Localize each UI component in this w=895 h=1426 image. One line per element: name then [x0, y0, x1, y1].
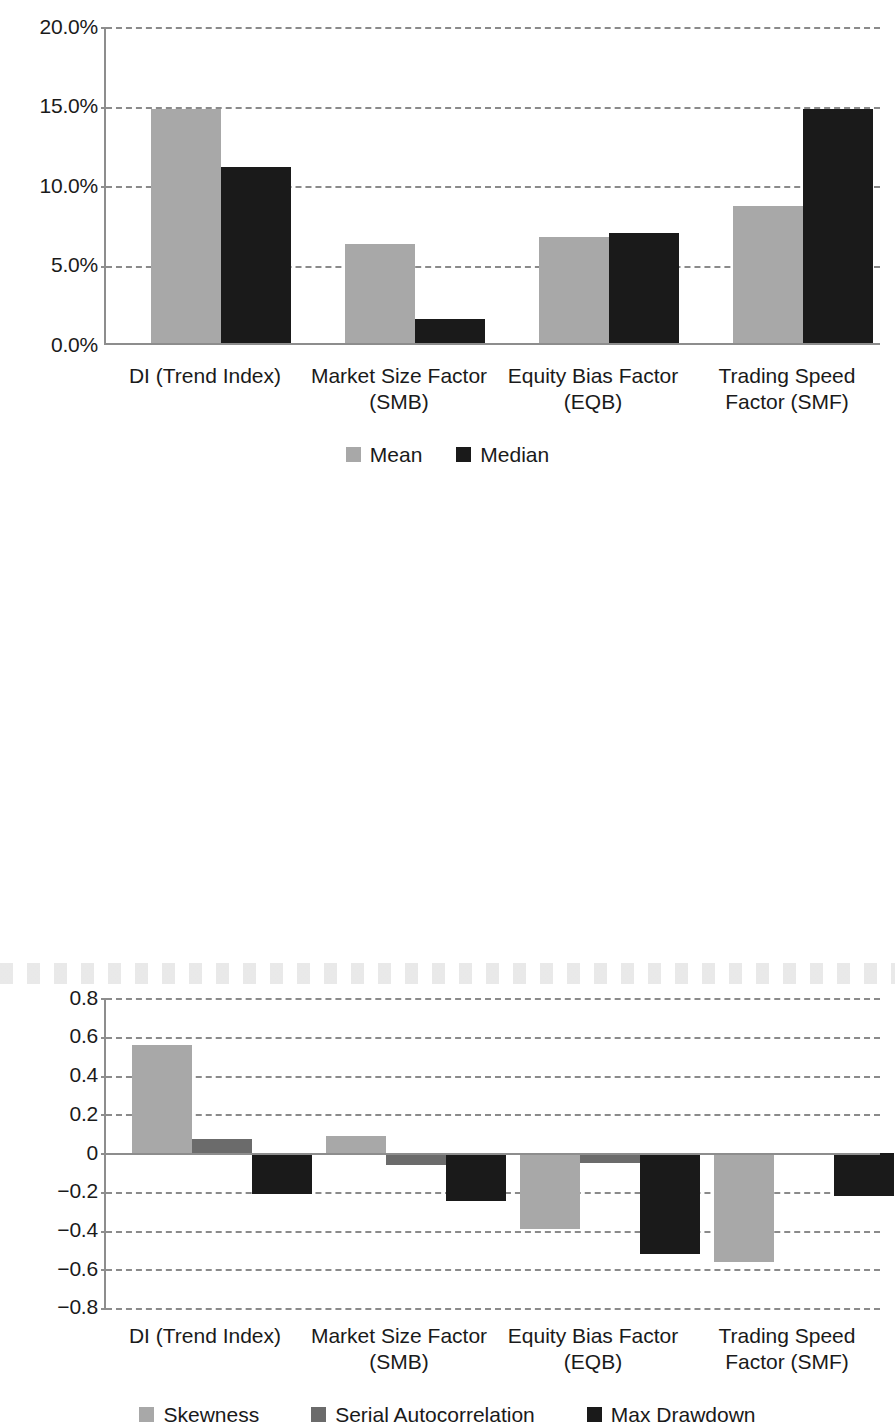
x-category-line: (SMB) [293, 389, 505, 415]
legend-label-median: Median [480, 444, 549, 465]
y-tick-label: 0.6 [6, 1025, 98, 1046]
bar-skewness-smb [326, 1136, 386, 1153]
y-tick-label: 0.0% [6, 334, 98, 355]
x-category-label-di: DI (Trend Index) [99, 363, 311, 389]
zero-baseline [106, 1153, 880, 1155]
y-tick-label: −0.4 [6, 1219, 98, 1240]
bar-skewness-eqb [520, 1153, 580, 1229]
bottom-chart-x-axis-labels: DI (Trend Index) Market Size Factor (SMB… [0, 1323, 895, 1383]
y-tickmark [101, 1037, 110, 1039]
y-tick-label: 0.8 [6, 987, 98, 1008]
legend-item-median[interactable]: Median [456, 444, 549, 465]
gridline-0.2 [106, 1114, 880, 1116]
page-scan-artifact [0, 963, 895, 984]
y-tickmark [101, 1076, 110, 1078]
gridline-0.6 [106, 1037, 880, 1039]
y-tick-label: 0.2 [6, 1103, 98, 1124]
x-category-line: Market Size Factor [293, 363, 505, 389]
x-category-line: Factor (SMF) [681, 1349, 893, 1375]
bar-maxdrawdown-eqb [640, 1153, 700, 1254]
x-category-label-smf: Trading Speed Factor (SMF) [681, 363, 893, 415]
x-category-line: Market Size Factor [293, 1323, 505, 1349]
legend-item-skewness[interactable]: Skewness [139, 1404, 259, 1425]
y-tickmark [101, 998, 110, 1000]
bar-mean-smb [345, 244, 415, 343]
y-tick-label: 20.0% [6, 16, 98, 37]
legend-label-mean: Mean [370, 444, 423, 465]
x-category-label-smb: Market Size Factor (SMB) [293, 1323, 505, 1375]
bar-median-smf [803, 109, 873, 343]
legend-swatch-mean-icon [346, 447, 361, 462]
bar-median-smb [415, 319, 485, 343]
y-tick-label: 5.0% [6, 254, 98, 275]
top-chart-legend: Mean Median [0, 442, 895, 466]
x-category-line: Equity Bias Factor [487, 1323, 699, 1349]
gridline--0.8 [106, 1308, 880, 1310]
x-category-line: (SMB) [293, 1349, 505, 1375]
y-tick-label: −0.6 [6, 1258, 98, 1279]
x-category-line: Trading Speed [681, 363, 893, 389]
gridline-0.4 [106, 1076, 880, 1078]
legend-label-skewness: Skewness [163, 1404, 259, 1425]
x-category-label-smf: Trading Speed Factor (SMF) [681, 1323, 893, 1375]
legend-item-max-drawdown[interactable]: Max Drawdown [587, 1404, 756, 1425]
y-tick-label: 15.0% [6, 95, 98, 116]
y-tickmark [101, 1308, 110, 1310]
bar-serialautocorr-di [192, 1139, 252, 1153]
legend-item-mean[interactable]: Mean [346, 444, 423, 465]
legend-swatch-skewness-icon [139, 1407, 154, 1422]
bar-median-eqb [609, 233, 679, 343]
x-category-line: DI (Trend Index) [99, 363, 311, 389]
y-tickmark [101, 186, 110, 188]
legend-swatch-serial-autocorrelation-icon [311, 1407, 326, 1422]
bottom-chart-plot-area [104, 998, 880, 1308]
legend-label-max-drawdown: Max Drawdown [611, 1404, 756, 1425]
y-tickmark [101, 107, 110, 109]
top-chart-plot-area [104, 27, 880, 345]
bar-mean-smf [733, 206, 803, 343]
top-chart-x-axis-labels: DI (Trend Index) Market Size Factor (SMB… [0, 363, 895, 423]
y-tickmark [101, 1114, 110, 1116]
x-category-line: (EQB) [487, 389, 699, 415]
bottom-chart: 0.8 0.6 0.4 0.2 0 −0.2 −0.4 −0.6 −0.8 [0, 975, 895, 1426]
bar-mean-di [151, 109, 221, 343]
y-tick-label: 0.4 [6, 1064, 98, 1085]
bar-maxdrawdown-smf [834, 1153, 894, 1196]
bar-skewness-di [132, 1045, 192, 1154]
y-tickmark [101, 27, 110, 29]
x-category-line: DI (Trend Index) [99, 1323, 311, 1349]
y-tickmark [101, 1231, 110, 1233]
x-category-label-eqb: Equity Bias Factor (EQB) [487, 1323, 699, 1375]
legend-item-serial-autocorrelation[interactable]: Serial Autocorrelation [311, 1404, 535, 1425]
legend-label-serial-autocorrelation: Serial Autocorrelation [335, 1404, 535, 1425]
bar-median-di [221, 167, 291, 344]
y-tick-label: 0 [6, 1142, 98, 1163]
y-tickmark [101, 1192, 110, 1194]
y-tick-label: 10.0% [6, 175, 98, 196]
y-tickmark [101, 1269, 110, 1271]
x-category-label-eqb: Equity Bias Factor (EQB) [487, 363, 699, 415]
x-category-label-di: DI (Trend Index) [99, 1323, 311, 1349]
legend-swatch-max-drawdown-icon [587, 1407, 602, 1422]
bar-maxdrawdown-di [252, 1153, 312, 1194]
gridline-0.8 [106, 998, 880, 1000]
legend-swatch-median-icon [456, 447, 471, 462]
x-category-line: Factor (SMF) [681, 389, 893, 415]
bar-mean-eqb [539, 237, 609, 344]
gridline-15 [106, 107, 880, 109]
gridline-20 [106, 27, 880, 29]
bar-maxdrawdown-smb [446, 1153, 506, 1201]
x-category-label-smb: Market Size Factor (SMB) [293, 363, 505, 415]
gridline--0.6 [106, 1269, 880, 1271]
top-chart: 20.0% 15.0% 10.0% 5.0% 0.0% DI (Trend In… [0, 0, 895, 480]
x-category-line: Equity Bias Factor [487, 363, 699, 389]
x-category-line: Trading Speed [681, 1323, 893, 1349]
y-tick-label: −0.8 [6, 1296, 98, 1317]
bottom-chart-legend: Skewness Serial Autocorrelation Max Draw… [0, 1402, 895, 1426]
y-tick-label: −0.2 [6, 1180, 98, 1201]
y-tickmark [101, 266, 110, 268]
bar-skewness-smf [714, 1153, 774, 1262]
x-category-line: (EQB) [487, 1349, 699, 1375]
